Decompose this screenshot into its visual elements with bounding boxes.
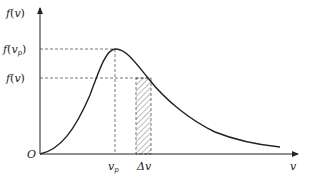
y-tick-fv: f(v) bbox=[5, 72, 25, 85]
y-axis-label: f(v) bbox=[5, 7, 25, 20]
distribution-curve bbox=[40, 49, 280, 154]
maxwell-distribution-diagram: f(v) f(vp) f(v) O vp Δv v bbox=[0, 0, 311, 184]
x-tick-delta-v: Δv bbox=[136, 160, 152, 173]
y-tick-fvp: f(vp) bbox=[2, 43, 26, 57]
x-tick-vp: vp bbox=[108, 160, 119, 174]
x-axis-label: v bbox=[290, 160, 297, 173]
hatched-strip bbox=[136, 78, 151, 154]
origin-label: O bbox=[27, 148, 36, 161]
